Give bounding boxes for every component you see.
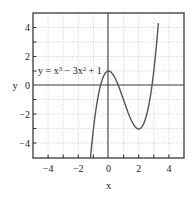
x-tick-label-minus2: −2 — [73, 163, 84, 174]
function-plot: 4 2 0 −2 −4 −4 −2 0 2 4 y x y = x3 − 3x2… — [0, 0, 194, 201]
x-axis-label: x — [106, 180, 112, 191]
equation-annotation: y = x3 − 3x2 + 1 — [38, 65, 102, 76]
x-tick-label-0: 0 — [106, 163, 111, 174]
y-tick-label-minus4: −4 — [19, 138, 30, 149]
equation-tail: + 1 — [86, 65, 102, 76]
equation-mid: − 3x — [62, 65, 83, 76]
y-tick-label-0: 0 — [25, 80, 30, 91]
x-tick-label-4: 4 — [166, 163, 171, 174]
y-tick-label-minus2: −2 — [19, 109, 30, 120]
x-tick-label-minus4: −4 — [43, 163, 54, 174]
figure-container: 4 2 0 −2 −4 −4 −2 0 2 4 y x y = x3 − 3x2… — [0, 0, 194, 201]
y-axis-label: y — [12, 80, 18, 91]
equation-lead: y = x — [38, 65, 59, 76]
y-tick-label-2: 2 — [25, 51, 30, 62]
y-tick-label-4: 4 — [25, 22, 30, 33]
x-tick-label-2: 2 — [136, 163, 141, 174]
